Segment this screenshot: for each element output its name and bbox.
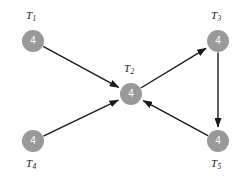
node-t4[interactable]: 4	[22, 130, 44, 152]
node-t3-label-sub: 3	[217, 14, 221, 23]
edge-t2-t3	[141, 48, 206, 88]
node-t2-label: T2	[124, 63, 134, 74]
node-t2-label-sub: 2	[130, 67, 134, 76]
node-t4-label-sub: 4	[32, 162, 36, 171]
edge-t5-t2	[143, 101, 208, 136]
node-t2[interactable]: 4	[120, 83, 142, 105]
node-t4-label: T4	[26, 158, 36, 169]
node-t3-value: 4	[215, 36, 221, 46]
node-t5-label: T5	[211, 158, 221, 169]
edge-t4-t2	[43, 100, 118, 136]
node-t5-label-sub: 5	[217, 162, 221, 171]
edge-t1-t2	[43, 46, 119, 87]
node-t1-value: 4	[30, 36, 36, 46]
node-t1-label: T1	[26, 10, 36, 21]
node-t5[interactable]: 4	[207, 130, 229, 152]
node-t2-value: 4	[128, 89, 134, 99]
graph-canvas: 4 T1 4 T2 4 T3 4 T4 4 T5	[0, 0, 245, 184]
node-t5-value: 4	[215, 136, 221, 146]
node-t1[interactable]: 4	[22, 30, 44, 52]
node-t3[interactable]: 4	[207, 30, 229, 52]
node-t3-label: T3	[211, 10, 221, 21]
node-t1-label-sub: 1	[32, 14, 36, 23]
node-t4-value: 4	[30, 136, 36, 146]
